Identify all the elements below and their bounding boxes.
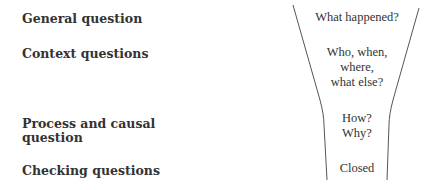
funnel-line: where, xyxy=(297,60,417,75)
funnel-left-edge xyxy=(293,5,327,180)
funnel-line: Who, when, xyxy=(297,45,417,60)
funnel-line: How? xyxy=(297,111,417,126)
label-line: question xyxy=(22,131,155,145)
label-general-question: General question xyxy=(22,12,142,26)
funnel-line: Why? xyxy=(297,126,417,141)
label-checking-questions: Checking questions xyxy=(22,164,160,178)
funnel-line: what else? xyxy=(297,75,417,90)
funnel-text-checking: Closed xyxy=(297,161,417,176)
label-line: Process and causal xyxy=(22,117,155,131)
funnel-right-edge xyxy=(387,8,419,180)
label-process-causal-question: Process and causal question xyxy=(22,117,155,145)
label-context-questions: Context questions xyxy=(22,47,148,61)
funnel-text-general: What happened? xyxy=(297,10,417,25)
funnel-text-process: How? Why? xyxy=(297,111,417,141)
funnel-text-context: Who, when, where, what else? xyxy=(297,45,417,90)
